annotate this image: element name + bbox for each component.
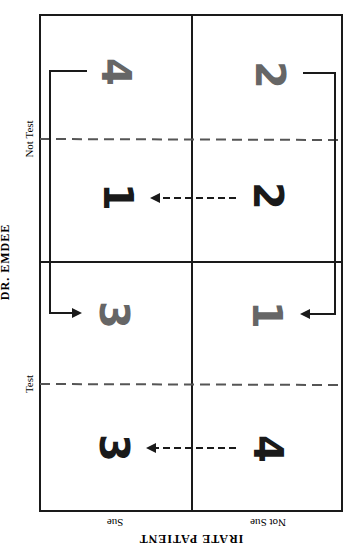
- payoff-bottom-left-upper: 3: [91, 301, 137, 329]
- label-dr-emdee: DR. EMDEE: [0, 224, 12, 300]
- label-irate-patient: IRATE PATIENT: [139, 532, 244, 546]
- payoff-top-right-upper: 2: [247, 61, 293, 89]
- payoff-bottom-right-upper: 1: [244, 301, 290, 329]
- label-test: Test: [23, 375, 35, 393]
- left-bracket-arrow: [50, 71, 87, 313]
- payoff-top-left-upper: 4: [93, 58, 139, 86]
- label-not-sue: Not Sue: [250, 517, 286, 529]
- label-sue: Sue: [107, 517, 124, 529]
- payoff-bottom-right-lower: 4: [245, 435, 291, 463]
- game-tree-diagram: 4 1 2 2 3 3 1 4 Not Test Test DR. EMDEE …: [0, 0, 349, 546]
- label-not-test: Not Test: [23, 120, 35, 157]
- not-test-dashed-line: [40, 139, 342, 140]
- payoff-top-right-lower: 2: [245, 182, 291, 210]
- payoff-bottom-left-lower: 3: [91, 434, 137, 462]
- test-dashed-line: [40, 384, 342, 385]
- payoff-top-left-lower: 1: [95, 183, 141, 211]
- right-bracket-arrow: [302, 73, 335, 314]
